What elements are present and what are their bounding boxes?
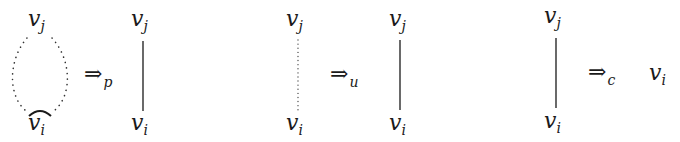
- node-vj-before-u: vj: [286, 8, 303, 33]
- node-vj-before-c: vj: [544, 5, 561, 30]
- double-arrow-icon: ⇒: [84, 61, 102, 86]
- arrow-p: ⇒p: [84, 63, 112, 89]
- dotted-loop-edge: [12, 38, 67, 110]
- arrow-u: ⇒u: [330, 63, 358, 89]
- node-vi-after-u: vi: [389, 112, 406, 137]
- double-arrow-icon: ⇒: [588, 59, 606, 84]
- node-vi-before-c: vi: [544, 110, 561, 135]
- node-vi-before-u: vi: [286, 112, 303, 137]
- double-arrow-icon: ⇒: [330, 61, 348, 86]
- arrow-c: ⇒c: [588, 61, 615, 87]
- node-vj-after-u: vj: [389, 8, 406, 33]
- node-vj-before-p: vj: [28, 8, 45, 33]
- node-vi-before-p: vi: [28, 112, 45, 137]
- node-vi-after-p: vi: [131, 112, 148, 137]
- node-vi-after-c: vi: [649, 62, 666, 87]
- node-vj-after-p: vj: [131, 8, 148, 33]
